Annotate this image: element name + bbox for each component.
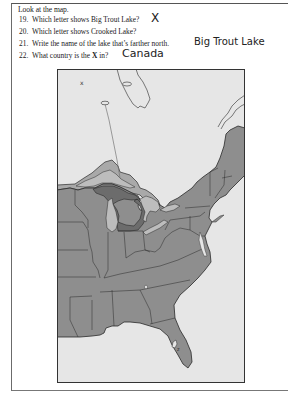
map: x z: [57, 69, 245, 383]
question-20: 20.Which letter shows Crooked Lake?: [19, 27, 136, 36]
canada-north-coast: [117, 69, 150, 108]
question-number: 21.: [19, 39, 32, 48]
question-19: 19.Which letter shows Big Trout Lake?: [19, 15, 139, 24]
marker-x: x: [80, 79, 84, 86]
question-text: Which letter shows Crooked Lake?: [32, 27, 136, 36]
georgia-lake: [145, 285, 148, 289]
instructions: Look at the map.: [18, 5, 69, 15]
question-number: 22.: [19, 51, 32, 60]
long-island: [212, 215, 224, 222]
question-number: 20.: [19, 27, 32, 36]
question-22: 22.What country is the X in?: [19, 51, 108, 60]
lake-oval: [101, 101, 109, 105]
map-svg: [57, 69, 245, 383]
marker-z: z: [177, 346, 180, 352]
question-number: 19.: [19, 15, 32, 24]
big-trout-lake: [123, 82, 132, 86]
question-text-after: in?: [97, 51, 108, 60]
answer-21[interactable]: Big Trout Lake: [194, 36, 265, 47]
us-land: [57, 126, 245, 368]
st-lawrence: [218, 95, 245, 129]
answer-19[interactable]: X: [151, 11, 159, 25]
answer-22[interactable]: Canada: [122, 47, 164, 60]
question-text: Which letter shows Big Trout Lake?: [32, 15, 139, 24]
question-text-before: What country is the: [32, 51, 92, 60]
